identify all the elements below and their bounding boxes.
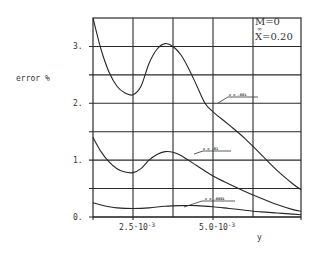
curve-label: ε = .0001 (205, 197, 224, 201)
y-tick-label: 1. (73, 156, 83, 165)
x-tick-label: 5.0·10-3 (199, 221, 236, 232)
curve-label: ε = .01 (203, 147, 218, 151)
x-axis-ticks: 2.5·10-35.0·10-3 (93, 217, 301, 232)
curve-label: ε = .001 (229, 93, 246, 97)
curve-labels: ε = .001ε = .01ε = .0001 (184, 93, 258, 207)
plot-frame (93, 18, 301, 217)
curves (93, 18, 301, 215)
label-leader-line (218, 97, 258, 103)
series-curve-1 (93, 137, 301, 211)
grid-lines (89, 18, 301, 217)
parameter-annotation: M=0 ∞ X=0.20 (255, 16, 293, 42)
series-curve-2 (93, 203, 301, 215)
y-axis-ticks: 0.1.2.3. (73, 42, 83, 222)
x-tick-label: 2.5·10-3 (119, 221, 156, 232)
error-chart: 0.1.2.3. 2.5·10-35.0·10-3 error % y M=0 … (0, 0, 318, 256)
series-curve-0 (93, 18, 301, 190)
y-tick-label: 2. (73, 99, 83, 108)
y-tick-label: 0. (73, 213, 83, 222)
x-position-label: X=0.20 (255, 31, 293, 42)
y-axis-label: error % (16, 74, 50, 83)
y-tick-label: 3. (73, 42, 83, 51)
x-axis-label: y (257, 233, 262, 242)
